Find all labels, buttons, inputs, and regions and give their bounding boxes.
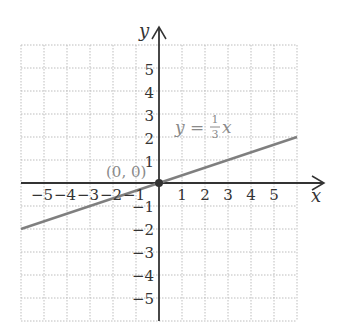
origin-point <box>155 179 163 187</box>
y-tick: −1 <box>132 198 154 216</box>
x-tick: −3 <box>77 186 99 204</box>
x-axis-label: x <box>311 185 321 206</box>
x-tick: 1 <box>177 186 187 204</box>
equation-denominator: 3 <box>212 128 219 141</box>
y-tick: −4 <box>132 267 154 285</box>
y-tick: −3 <box>132 244 154 262</box>
y-tick: 5 <box>144 61 154 79</box>
equation-variable: x <box>222 117 232 137</box>
x-tick: −2 <box>100 186 122 204</box>
x-tick: 4 <box>246 186 256 204</box>
y-axis-label: y <box>138 20 150 41</box>
x-tick-labels: −5 −4 −3 −2 −1 1 2 3 4 5 <box>31 186 279 204</box>
equation-lhs: y = <box>174 117 204 137</box>
y-axis <box>152 27 166 321</box>
x-tick: 3 <box>223 186 233 204</box>
x-tick: 5 <box>269 186 279 204</box>
y-tick: 3 <box>144 107 154 125</box>
y-tick: −5 <box>132 290 154 308</box>
coordinate-plane: y x −5 −4 −3 −2 −1 1 2 3 4 5 5 4 3 2 1 −… <box>0 0 339 333</box>
y-tick: 2 <box>144 130 154 148</box>
y-tick: 4 <box>144 84 154 102</box>
x-tick: −4 <box>54 186 76 204</box>
origin-label: (0, 0) <box>106 163 146 181</box>
equation-label: y = 1 3 x <box>174 113 232 141</box>
y-tick: −2 <box>132 221 154 239</box>
x-tick: 2 <box>200 186 210 204</box>
x-tick: −5 <box>31 186 53 204</box>
equation-numerator: 1 <box>212 113 219 126</box>
